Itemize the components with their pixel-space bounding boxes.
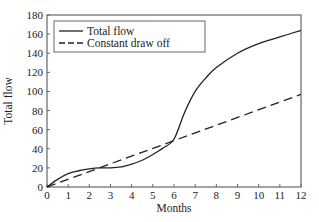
x-tick-label: 6 — [171, 189, 177, 201]
y-tick-label: 180 — [27, 9, 44, 21]
series-layer — [47, 30, 301, 187]
series-line-constant-draw-off — [47, 94, 301, 187]
y-tick-label: 160 — [27, 28, 44, 40]
x-tick-label: 2 — [87, 189, 93, 201]
y-tick-label: 60 — [32, 124, 44, 136]
y-tick-label: 40 — [32, 143, 44, 155]
y-tick-label: 120 — [27, 66, 44, 78]
x-tick-label: 4 — [129, 189, 135, 201]
x-axis-label: Months — [156, 202, 192, 214]
chart: 0123456789101112 02040608010012014016018… — [0, 0, 319, 222]
x-tick-label: 8 — [214, 189, 220, 201]
x-tick-label: 1 — [65, 189, 71, 201]
x-tick-label: 11 — [275, 189, 286, 201]
y-tick-label: 20 — [32, 162, 44, 174]
y-tick-label: 80 — [32, 105, 44, 117]
y-tick-label: 0 — [38, 181, 44, 193]
x-tick-label: 9 — [235, 189, 241, 201]
y-tick-label: 140 — [27, 47, 44, 59]
x-tick-label: 3 — [108, 189, 114, 201]
y-tick-label: 100 — [27, 85, 44, 97]
legend-label: Total flow — [87, 25, 135, 37]
x-tick-label: 12 — [296, 189, 307, 201]
x-tick-label: 7 — [192, 189, 198, 201]
x-tick-label: 10 — [253, 189, 265, 201]
x-tick-label: 0 — [44, 189, 50, 201]
y-axis-label: Total flow — [2, 77, 14, 125]
legend-label: Constant draw off — [87, 37, 170, 49]
legend: Total flowConstant draw off — [54, 21, 205, 52]
x-tick-label: 5 — [150, 189, 156, 201]
